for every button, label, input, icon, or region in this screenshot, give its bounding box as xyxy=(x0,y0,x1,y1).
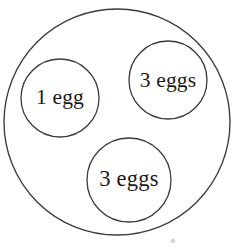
group-three-eggs-top-right-label: 3 eggs xyxy=(140,68,197,92)
egg-grouping-diagram: 1 egg 3 eggs 3 eggs xyxy=(0,0,245,249)
scan-speck xyxy=(171,239,176,244)
diagram-canvas: 1 egg 3 eggs 3 eggs xyxy=(0,0,245,249)
group-three-eggs-bottom-label: 3 eggs xyxy=(99,166,158,191)
group-one-egg-label: 1 egg xyxy=(36,85,84,109)
